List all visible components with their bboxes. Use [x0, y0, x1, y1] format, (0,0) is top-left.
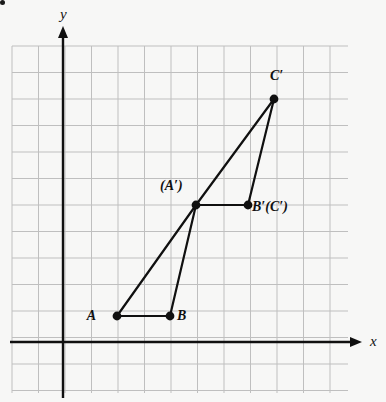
vertex-label-aprime: (A′) — [160, 178, 183, 194]
vertex-label-cprime: C′ — [270, 68, 283, 84]
vertex-point-aprime[interactable] — [192, 201, 201, 210]
y-axis-label: y — [60, 6, 67, 23]
x-axis-arrow-icon — [350, 337, 362, 347]
segment-A-Aprime — [117, 205, 196, 316]
vertex-label-b: B — [177, 308, 186, 324]
geometry-figure: x y AB(A′)B′(C′)C′ — [0, 0, 386, 402]
y-axis-arrow-icon — [58, 26, 68, 38]
vertex-label-bprime: B′(C′) — [252, 199, 288, 215]
axes-layer — [10, 26, 362, 398]
vertex-label-a: A — [87, 308, 96, 324]
vertex-point-a[interactable] — [113, 312, 122, 321]
vertex-point-cprime[interactable] — [270, 95, 279, 104]
vertex-point-b[interactable] — [166, 312, 175, 321]
x-axis-label: x — [370, 333, 377, 350]
diagram-canvas — [0, 0, 386, 402]
